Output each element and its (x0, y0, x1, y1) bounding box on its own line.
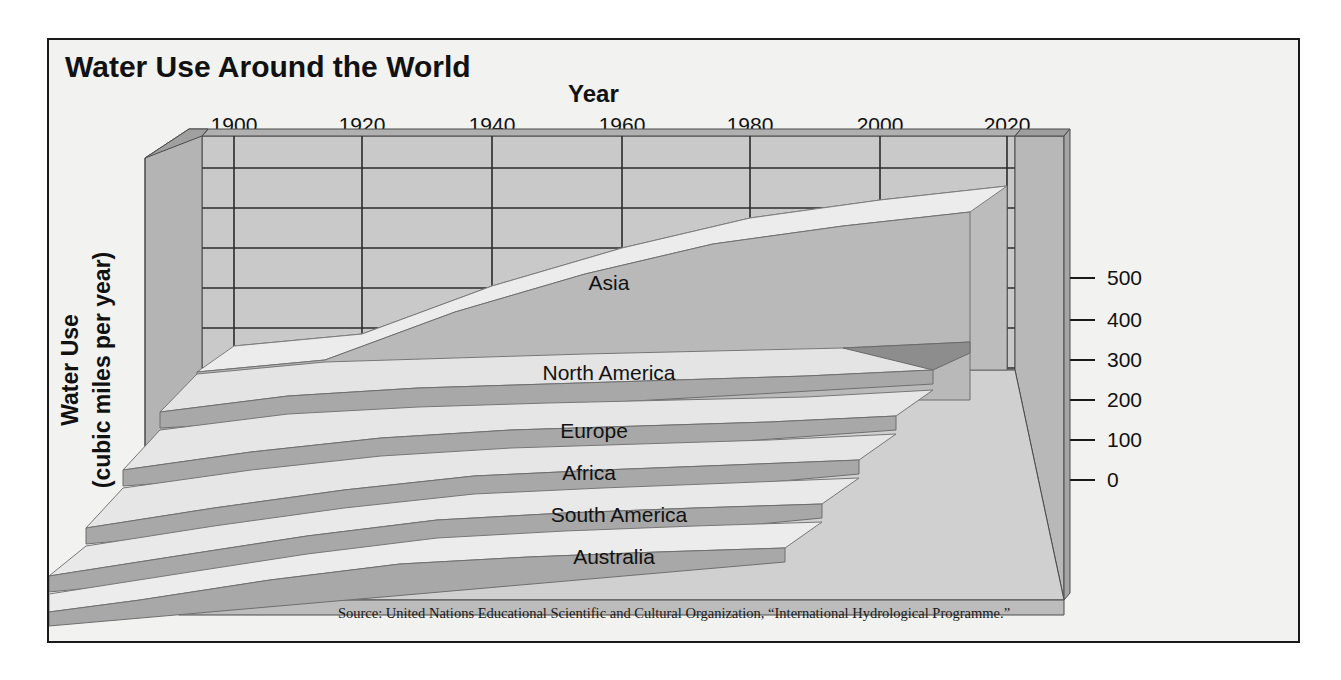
series-label-asia: Asia (589, 271, 630, 294)
series-label-south-america: South America (551, 503, 688, 526)
right-tick-label: 400 (1107, 308, 1142, 331)
y-axis-title-line1: Water Use (57, 314, 83, 426)
right-tick-label: 100 (1107, 428, 1142, 451)
series-label-europe: Europe (560, 419, 628, 442)
chart-title: Water Use Around the World (65, 50, 471, 83)
right-tick-label: 500 (1107, 266, 1142, 289)
right-tick-label: 0 (1107, 468, 1119, 491)
source-note: Source: United Nations Educational Scien… (338, 605, 1010, 621)
right-axis-ticks (1070, 278, 1095, 480)
y-axis-title: Water Use (cubic miles per year) (57, 252, 115, 489)
chart-figure-frame: Water Use Around the World Year Water Us… (47, 38, 1300, 643)
series-label-africa: Africa (562, 461, 616, 484)
y-axis-title-line2: (cubic miles per year) (89, 252, 115, 489)
right-tick-label: 300 (1107, 348, 1142, 371)
right-tick-label: 200 (1107, 388, 1142, 411)
water-use-chart: Water Use Around the World Year Water Us… (49, 40, 1298, 641)
right-tick-labels: 500 400 300 200 100 0 (1107, 266, 1142, 491)
x-axis-title: Year (568, 80, 619, 107)
series-label-australia: Australia (573, 545, 655, 568)
series-label-north-america: North America (542, 361, 675, 384)
